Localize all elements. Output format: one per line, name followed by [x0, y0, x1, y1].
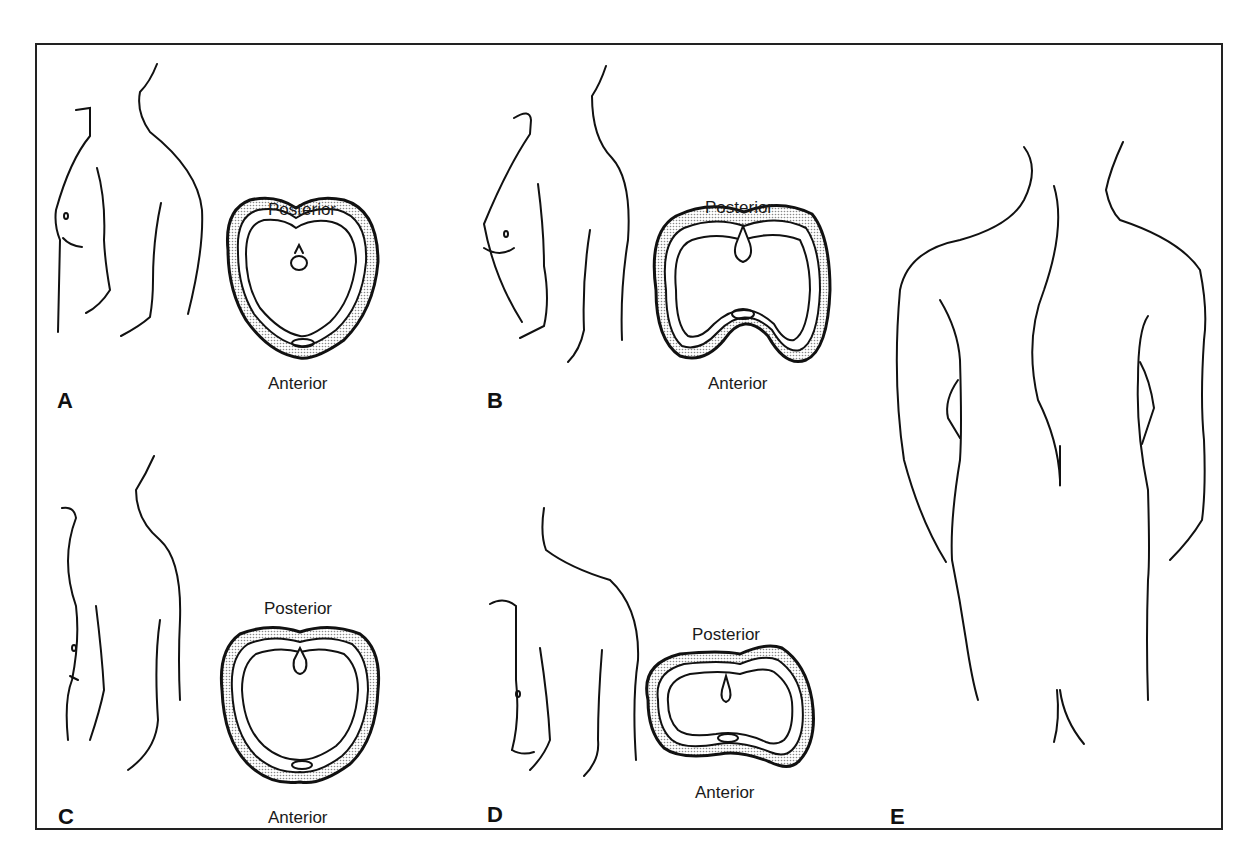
back-view-e — [897, 142, 1206, 744]
figure: Posterior Anterior A Posterior Anterior … — [0, 0, 1255, 857]
torso-side-view-a — [56, 64, 203, 336]
cross-section-b — [654, 205, 830, 361]
anterior-label-b: Anterior — [708, 374, 768, 394]
torso-side-view-d — [490, 508, 638, 776]
panel-label-e: E — [890, 804, 905, 830]
panel-label-c: C — [58, 804, 74, 830]
cross-section-c — [221, 627, 378, 782]
panel-label-d: D — [487, 802, 503, 828]
posterior-label-c: Posterior — [264, 599, 332, 619]
anterior-label-a: Anterior — [268, 374, 328, 394]
anterior-label-c: Anterior — [268, 808, 328, 828]
anterior-label-d: Anterior — [695, 783, 755, 803]
posterior-label-b: Posterior — [705, 198, 773, 218]
panel-label-b: B — [487, 388, 503, 414]
posterior-label-a: Posterior — [268, 200, 336, 220]
cross-section-a — [227, 198, 378, 358]
cross-section-d — [647, 646, 814, 767]
illustration-canvas — [0, 0, 1255, 857]
panel-label-a: A — [57, 388, 73, 414]
torso-side-view-b — [484, 66, 629, 362]
posterior-label-d: Posterior — [692, 625, 760, 645]
torso-side-view-c — [62, 456, 180, 770]
